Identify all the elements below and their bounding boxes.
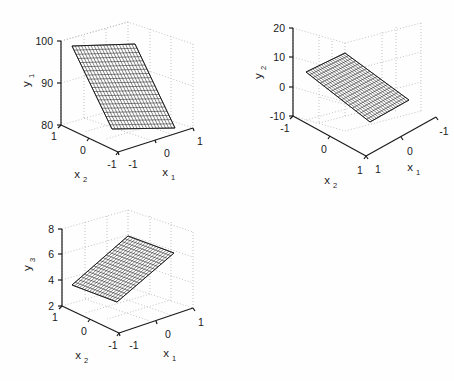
panel1-x2label-base: x: [74, 168, 80, 180]
panel3-x2tick-0: 1: [52, 311, 58, 323]
panel2-ztick-0: -10: [270, 110, 285, 122]
panel2-x1tick-2: -1: [439, 125, 448, 137]
panel1-x2-axis-label: x 2: [74, 168, 87, 184]
panel1-x1label-base: x: [162, 166, 168, 178]
panel1-z-ticklabels: 100 90 80: [35, 35, 53, 131]
panel-y3-svg: 8 6 4 2 1 0 -1 -1 0 1 y 3 x 2 x 1: [0, 190, 230, 381]
panel2-x2-ticklabels: -1 0 1: [280, 122, 363, 176]
panel2-x1-axis: [366, 117, 436, 156]
panel3-x2tick-2: -1: [108, 339, 117, 351]
panel3-x1label-base: x: [163, 347, 169, 359]
panel2-x2tick-2: 1: [357, 164, 363, 176]
panel3-x2-axis: [62, 306, 119, 333]
panel2-zlabel-sub: 2: [259, 66, 268, 70]
panel3-x1tick-2: 1: [198, 316, 204, 328]
panel1-x1tick-2: 1: [197, 135, 203, 147]
panel3-ztick-2: 6: [48, 248, 54, 260]
panel3-x1-axis-label: x 1: [163, 347, 176, 363]
panel2-x1label-sub: 1: [416, 168, 420, 177]
panel2-z-ticklabels: 20 10 0 -10: [270, 22, 285, 122]
panel1-surface-mesh: [72, 44, 175, 129]
panel3-x2label-sub: 2: [84, 356, 88, 365]
panel2-ztick-3: 20: [273, 22, 285, 34]
panel2-surface-mesh: [306, 53, 409, 122]
panel2-x2tick-0: -1: [280, 122, 289, 134]
panel2-zlabel-base: y: [252, 73, 264, 79]
panel2-x1tick-1: 0: [407, 145, 413, 157]
panel-y2: 20 10 0 -10 -1 0 1 1 0 -1 y 2 x 2 x 1: [240, 0, 454, 190]
panel3-x2tick-1: 0: [81, 325, 87, 337]
panel1-zlabel-base: y: [20, 81, 32, 87]
panel3-x1tick-1: 0: [165, 328, 171, 340]
panel2-ztick-1: 0: [279, 81, 285, 93]
panel2-ztick-2: 10: [273, 51, 285, 63]
panel3-ztick-1: 4: [48, 274, 54, 286]
panel-y3: 8 6 4 2 1 0 -1 -1 0 1 y 3 x 2 x 1: [0, 190, 230, 381]
panel1-x1-ticklabels: -1 0 1: [128, 135, 203, 170]
panel1-x2-axis: [61, 125, 118, 152]
panel3-zlabel-base: y: [21, 265, 33, 271]
panel1-z-axis-label: y 1: [20, 74, 36, 87]
panel3-x1label-sub: 1: [172, 354, 176, 363]
panel2-x1tick-0: 1: [375, 163, 381, 175]
panel3-z-axis-label: y 3: [21, 258, 37, 271]
panel2-x2label-sub: 2: [333, 181, 337, 190]
panel3-x2-axis-label: x 2: [75, 349, 88, 365]
panel3-x2label-base: x: [75, 349, 81, 361]
panel-y1: 100 90 80 1 0 -1 -1 0 1 y 1 x 2 x 1: [0, 0, 230, 190]
panel1-ztick-1: 90: [41, 77, 53, 89]
panel1-ztick-2: 100: [35, 35, 53, 47]
panel1-x1tick-0: -1: [128, 158, 137, 170]
panel2-x1label-base: x: [407, 161, 413, 173]
panel2-z-axis-label: y 2: [252, 66, 268, 79]
panel1-zlabel-sub: 1: [27, 74, 36, 78]
panel1-x2tick-2: -1: [107, 158, 116, 170]
panel1-x1label-sub: 1: [171, 173, 175, 182]
panel3-ztick-3: 8: [48, 223, 54, 235]
panel1-x2tick-0: 1: [51, 130, 57, 142]
panel2-x2-axis-label: x 2: [324, 174, 337, 190]
panel2-x2label-base: x: [324, 174, 330, 186]
panel2-x2tick-1: 0: [321, 143, 327, 155]
panel3-x1tick-0: -1: [129, 339, 138, 351]
panel1-x1tick-1: 0: [164, 147, 170, 159]
panel2-x1-axis-label: x 1: [407, 161, 420, 177]
panel3-zlabel-sub: 3: [28, 258, 37, 262]
panel-y2-svg: 20 10 0 -10 -1 0 1 1 0 -1 y 2 x 2 x 1: [240, 0, 454, 190]
panel3-x1-ticklabels: -1 0 1: [129, 316, 204, 351]
panel1-x2label-sub: 2: [83, 175, 87, 184]
panel3-surface-mesh: [72, 236, 174, 302]
panel1-x2tick-1: 0: [80, 144, 86, 156]
panel3-z-ticklabels: 8 6 4 2: [48, 223, 54, 312]
panel-y1-svg: 100 90 80 1 0 -1 -1 0 1 y 1 x 2 x 1: [0, 0, 230, 190]
panel1-x1-axis-label: x 1: [162, 166, 175, 182]
